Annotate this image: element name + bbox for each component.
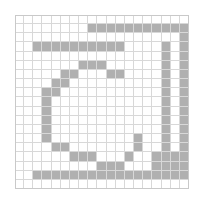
grid-cell[interactable] [180,79,189,88]
grid-cell[interactable] [107,125,116,134]
grid-cell[interactable] [171,143,180,152]
grid-cell[interactable] [70,116,79,125]
grid-cell[interactable] [70,15,79,24]
grid-cell[interactable] [61,134,70,143]
grid-cell[interactable] [52,162,61,171]
grid-cell[interactable] [70,152,79,161]
grid-cell[interactable] [70,24,79,33]
grid-cell[interactable] [61,15,70,24]
grid-cell[interactable] [70,70,79,79]
grid-cell[interactable] [33,61,42,70]
grid-cell[interactable] [162,97,171,106]
grid-cell[interactable] [134,152,143,161]
grid-cell[interactable] [61,70,70,79]
grid-cell[interactable] [143,107,152,116]
grid-cell[interactable] [152,15,161,24]
grid-cell[interactable] [125,125,134,134]
grid-cell[interactable] [180,171,189,180]
grid-cell[interactable] [97,171,106,180]
grid-cell[interactable] [171,125,180,134]
grid-cell[interactable] [116,24,125,33]
grid-cell[interactable] [79,70,88,79]
grid-cell[interactable] [24,42,33,51]
grid-cell[interactable] [134,15,143,24]
grid-cell[interactable] [88,116,97,125]
grid-cell[interactable] [107,180,116,189]
grid-cell[interactable] [152,88,161,97]
grid-cell[interactable] [180,52,189,61]
grid-cell[interactable] [162,88,171,97]
grid-cell[interactable] [33,79,42,88]
grid-cell[interactable] [162,152,171,161]
grid-cell[interactable] [116,70,125,79]
grid-cell[interactable] [61,79,70,88]
grid-cell[interactable] [107,143,116,152]
grid-cell[interactable] [15,15,24,24]
grid-cell[interactable] [33,152,42,161]
grid-cell[interactable] [15,33,24,42]
grid-cell[interactable] [143,125,152,134]
grid-cell[interactable] [180,143,189,152]
grid-cell[interactable] [97,107,106,116]
grid-cell[interactable] [125,152,134,161]
grid-cell[interactable] [171,79,180,88]
grid-cell[interactable] [171,171,180,180]
grid-cell[interactable] [162,79,171,88]
grid-cell[interactable] [143,162,152,171]
grid-cell[interactable] [116,61,125,70]
grid-cell[interactable] [42,42,51,51]
grid-cell[interactable] [61,152,70,161]
grid-cell[interactable] [134,134,143,143]
grid-cell[interactable] [52,116,61,125]
grid-cell[interactable] [171,88,180,97]
grid-cell[interactable] [152,180,161,189]
grid-cell[interactable] [107,61,116,70]
grid-cell[interactable] [97,97,106,106]
grid-cell[interactable] [79,88,88,97]
grid-cell[interactable] [116,33,125,42]
grid-cell[interactable] [24,152,33,161]
grid-cell[interactable] [52,42,61,51]
grid-cell[interactable] [42,97,51,106]
grid-cell[interactable] [107,116,116,125]
grid-cell[interactable] [42,15,51,24]
grid-cell[interactable] [61,61,70,70]
grid-cell[interactable] [180,162,189,171]
grid-cell[interactable] [97,42,106,51]
grid-cell[interactable] [42,61,51,70]
grid-cell[interactable] [125,52,134,61]
grid-cell[interactable] [171,61,180,70]
grid-cell[interactable] [79,61,88,70]
cell-grid[interactable] [15,15,189,189]
grid-cell[interactable] [79,143,88,152]
grid-cell[interactable] [33,33,42,42]
grid-cell[interactable] [125,171,134,180]
grid-cell[interactable] [143,24,152,33]
grid-cell[interactable] [152,70,161,79]
grid-cell[interactable] [52,180,61,189]
grid-cell[interactable] [79,33,88,42]
grid-cell[interactable] [79,162,88,171]
grid-cell[interactable] [15,180,24,189]
grid-cell[interactable] [70,162,79,171]
grid-cell[interactable] [88,52,97,61]
grid-cell[interactable] [134,143,143,152]
grid-cell[interactable] [52,125,61,134]
grid-cell[interactable] [152,134,161,143]
grid-cell[interactable] [52,107,61,116]
grid-cell[interactable] [42,180,51,189]
grid-cell[interactable] [70,88,79,97]
grid-cell[interactable] [79,171,88,180]
grid-cell[interactable] [97,70,106,79]
grid-cell[interactable] [116,171,125,180]
grid-cell[interactable] [97,143,106,152]
grid-cell[interactable] [152,162,161,171]
grid-cell[interactable] [33,24,42,33]
grid-cell[interactable] [15,134,24,143]
grid-cell[interactable] [107,134,116,143]
grid-cell[interactable] [24,15,33,24]
grid-cell[interactable] [15,116,24,125]
grid-cell[interactable] [171,70,180,79]
grid-cell[interactable] [24,88,33,97]
grid-cell[interactable] [24,180,33,189]
